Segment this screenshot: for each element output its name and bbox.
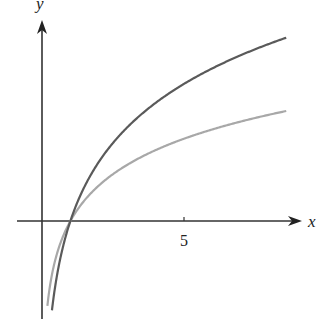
y-axis-label: y <box>34 0 44 13</box>
x-tick-label-5: 5 <box>180 232 188 249</box>
dark-curve <box>52 38 286 311</box>
x-axis-label: x <box>307 212 316 231</box>
light-curve <box>47 111 286 306</box>
chart: 5 x y <box>0 0 319 319</box>
